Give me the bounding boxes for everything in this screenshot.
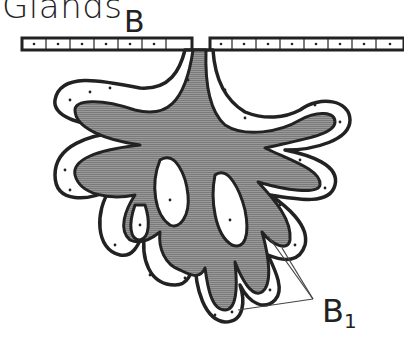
surface-epithelium	[22, 38, 404, 50]
callout-label-b1: B1	[322, 292, 357, 333]
